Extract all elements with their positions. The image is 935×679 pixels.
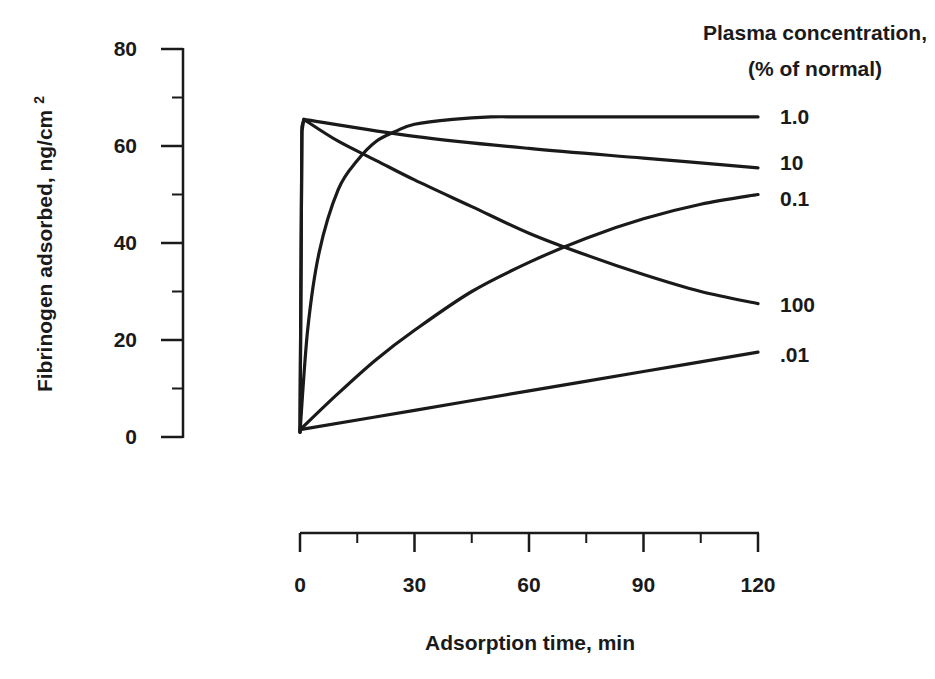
legend-title-line1: Plasma concentration, <box>703 21 927 44</box>
curve-1p0 <box>300 117 758 432</box>
y-axis: 020406080 <box>114 37 183 448</box>
curve-labels: 1.0100.1100.01 <box>780 105 815 366</box>
curve-label: 100 <box>780 293 815 316</box>
y-tick-label: 0 <box>125 425 137 448</box>
x-tick-label: 90 <box>632 573 655 596</box>
y-tick-label: 80 <box>114 37 137 60</box>
data-curves <box>300 117 758 432</box>
curve-label: 0.1 <box>780 187 810 210</box>
curve-label: 1.0 <box>780 105 809 128</box>
x-axis: 0306090120 <box>294 533 775 596</box>
x-tick-label: 120 <box>740 573 775 596</box>
curve-label: .01 <box>780 343 810 366</box>
x-axis-label: Adsorption time, min <box>425 631 635 654</box>
x-tick-label: 0 <box>294 573 306 596</box>
y-tick-label: 40 <box>114 231 137 254</box>
y-tick-label: 60 <box>114 134 137 157</box>
y-tick-label: 20 <box>114 328 137 351</box>
x-tick-label: 30 <box>403 573 426 596</box>
curve-0p1 <box>300 195 758 430</box>
curve-100 <box>300 119 758 432</box>
curve-10 <box>300 119 758 432</box>
curve-label: 10 <box>780 151 803 174</box>
x-tick-label: 60 <box>517 573 540 596</box>
legend-title-line2: (% of normal) <box>748 57 882 80</box>
chart: 020406080 Fibrinogen adsorbed, ng/cm2 03… <box>0 0 935 679</box>
y-axis-label: Fibrinogen adsorbed, ng/cm2 <box>31 96 56 392</box>
